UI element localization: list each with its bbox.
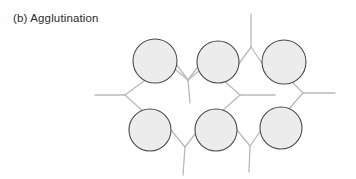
cell-top-middle <box>197 41 239 83</box>
antibody-right-edge <box>287 78 335 111</box>
cell-layer <box>129 39 306 151</box>
agglutination-figure: (b) Agglutination <box>0 0 356 179</box>
cell-bottom-right <box>260 107 302 149</box>
antibody-bottom-right-down-stem <box>249 146 250 172</box>
cell-bottom-left <box>129 109 171 151</box>
cell-top-right <box>262 40 306 84</box>
antibody-top-left-outer <box>176 70 200 80</box>
cell-top-left <box>133 39 177 83</box>
antibody-left-edge <box>95 78 148 113</box>
cell-bottom-middle <box>195 109 237 151</box>
antibody-bottom-left-down-stem <box>183 147 185 175</box>
antibody-upper-left-down-stem <box>188 80 190 103</box>
antibody-center-left <box>221 79 275 112</box>
antibody-center-left-arm-2 <box>221 95 240 112</box>
agglutination-diagram <box>0 0 356 179</box>
